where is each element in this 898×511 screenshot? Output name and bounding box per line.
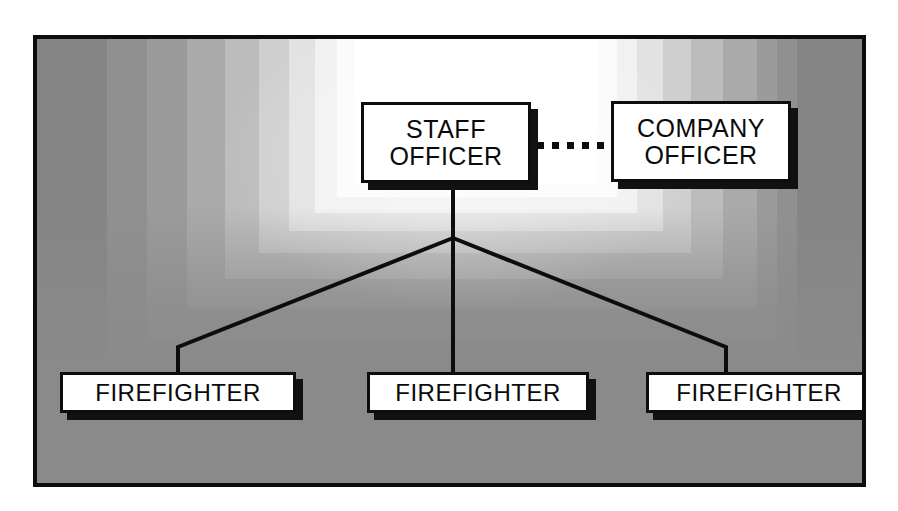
node-firefighter-2-label: FIREFIGHTER [395,380,561,406]
node-company-officer-label: COMPANY OFFICER [637,115,765,169]
node-firefighter-3-label: FIREFIGHTER [676,380,842,406]
connector-staff-to-firefighter-1 [178,238,453,372]
connector-staff-to-company [537,142,604,149]
organizational-chart-frame: STAFF OFFICER COMPANY OFFICER FIREFIGHTE… [33,35,866,487]
connector-staff-to-firefighter-3 [453,238,726,372]
node-staff-officer[interactable]: STAFF OFFICER [361,102,531,183]
node-staff-officer-label: STAFF OFFICER [389,116,502,170]
node-company-officer[interactable]: COMPANY OFFICER [611,101,791,182]
node-firefighter-2[interactable]: FIREFIGHTER [367,372,589,413]
background-band-1 [107,39,797,369]
node-firefighter-1[interactable]: FIREFIGHTER [60,372,296,413]
node-firefighter-3[interactable]: FIREFIGHTER [646,372,866,413]
node-firefighter-1-label: FIREFIGHTER [95,380,261,406]
background-band-2 [147,39,777,339]
